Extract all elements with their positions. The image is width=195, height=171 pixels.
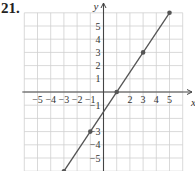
y-tick-label: −4 xyxy=(90,139,101,150)
x-tick-label: 5 xyxy=(167,94,172,105)
y-tick-label: 5 xyxy=(96,21,101,32)
x-axis-label: x xyxy=(190,96,195,108)
y-tick-label: −5 xyxy=(90,153,101,164)
x-tick-label: 4 xyxy=(154,94,159,105)
y-tick-label: 1 xyxy=(96,73,101,84)
y-tick-label: 2 xyxy=(96,60,101,71)
x-tick-label: −2 xyxy=(72,94,83,105)
data-point xyxy=(114,90,119,95)
x-tick-label: 2 xyxy=(127,94,132,105)
data-point xyxy=(88,129,93,134)
x-tick-label: 3 xyxy=(141,94,146,105)
y-tick-label: 3 xyxy=(96,47,101,58)
x-tick-label: −5 xyxy=(32,94,43,105)
coordinate-graph: xy −5−4−3−2−1234554321−1−3−4−5 xyxy=(0,0,195,171)
y-axis-label: y xyxy=(93,0,99,12)
data-point xyxy=(141,50,146,55)
x-tick-label: −3 xyxy=(59,94,70,105)
data-point xyxy=(167,11,172,16)
y-tick-label: 4 xyxy=(96,34,101,45)
x-tick-label: −4 xyxy=(45,94,56,105)
y-tick-label: −1 xyxy=(90,100,101,111)
